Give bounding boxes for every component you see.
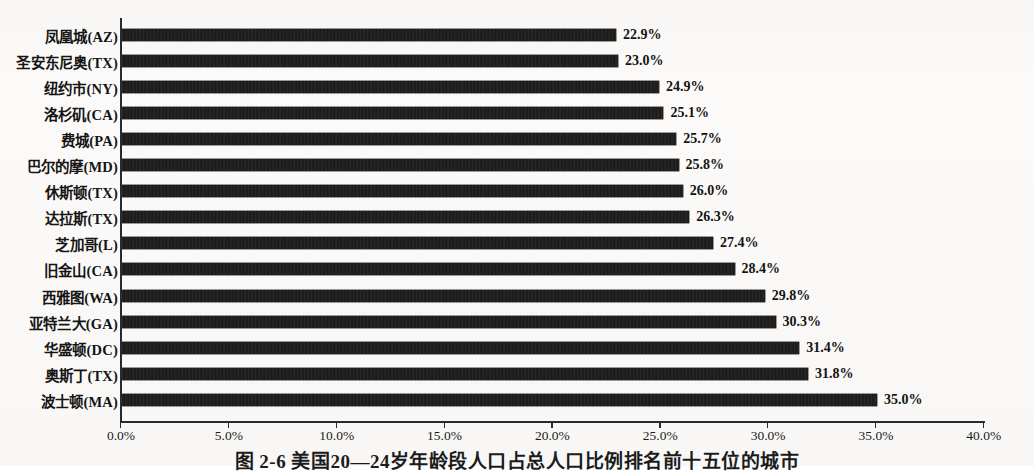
bar-value-label: 25.7% — [683, 131, 722, 147]
category-label: 华盛顿(DC) — [0, 337, 118, 358]
bar — [122, 133, 676, 145]
bar-row: 旧金山(CA)28.4% — [0, 256, 1034, 282]
x-axis-tick — [767, 421, 768, 428]
bar-value-label: 31.4% — [806, 340, 845, 356]
bar — [122, 342, 799, 354]
bar-row: 奥斯丁(TX)31.8% — [0, 361, 1034, 387]
bar-row: 亚特兰大(GA)30.3% — [0, 309, 1034, 335]
bar-row: 费城(PA)25.7% — [0, 126, 1034, 152]
category-label: 亚特兰大(GA) — [0, 311, 118, 332]
figure-caption: 图 2-6 美国20—24岁年龄段人口占总人口比例排名前十五位的城市 — [0, 446, 1034, 473]
bar — [122, 394, 877, 406]
x-axis-tick — [551, 421, 552, 428]
bar-row: 凤凰城(AZ)22.9% — [0, 22, 1034, 48]
category-label: 旧金山(CA) — [0, 259, 118, 280]
bar-value-label: 23.0% — [625, 53, 664, 69]
category-label: 费城(PA) — [0, 129, 118, 150]
category-label: 洛杉矶(CA) — [0, 103, 118, 124]
bar-row: 达拉斯(TX)26.3% — [0, 204, 1034, 230]
x-axis-tick — [983, 421, 984, 428]
bar-value-label: 25.8% — [686, 157, 725, 173]
bar — [122, 185, 683, 197]
bar-value-label: 35.0% — [884, 392, 923, 408]
bar — [122, 290, 765, 302]
bar-value-label: 26.0% — [690, 183, 729, 199]
bar — [122, 237, 713, 249]
bar-value-label: 29.8% — [772, 288, 811, 304]
bar-row: 纽约市(NY)24.9% — [0, 74, 1034, 100]
bar-row: 圣安东尼奥(TX)23.0% — [0, 48, 1034, 74]
x-axis-tick — [120, 421, 121, 428]
bar-value-label: 28.4% — [742, 261, 781, 277]
bar-row: 波士顿(MA)35.0% — [0, 387, 1034, 413]
bar-value-label: 27.4% — [720, 235, 759, 251]
bar — [122, 55, 618, 67]
category-label: 巴尔的摩(MD) — [0, 155, 118, 176]
x-axis-tick-label: 35.0% — [859, 428, 894, 444]
x-axis-tick — [444, 421, 445, 428]
bar-value-label: 30.3% — [783, 314, 822, 330]
bar-value-label: 31.8% — [815, 366, 854, 382]
bar — [122, 211, 689, 223]
bar — [122, 316, 776, 328]
y-axis-line — [120, 18, 122, 422]
bar-row: 芝加哥(L)27.4% — [0, 230, 1034, 256]
x-axis-tick-label: 15.0% — [427, 428, 462, 444]
category-label: 凤凰城(AZ) — [0, 25, 118, 46]
category-label: 纽约市(NY) — [0, 77, 118, 98]
bar-value-label: 24.9% — [666, 79, 705, 95]
bar — [122, 29, 616, 41]
bar-chart: 凤凰城(AZ)22.9%圣安东尼奥(TX)23.0%纽约市(NY)24.9%洛杉… — [0, 0, 1034, 440]
bar — [122, 263, 735, 275]
x-axis-tick-label: 30.0% — [751, 428, 786, 444]
category-label: 西雅图(WA) — [0, 285, 118, 306]
bar-row: 休斯顿(TX)26.0% — [0, 178, 1034, 204]
bar — [122, 107, 663, 119]
x-axis-tick-label: 20.0% — [535, 428, 570, 444]
category-label: 芝加哥(L) — [0, 233, 118, 254]
bar-row: 巴尔的摩(MD)25.8% — [0, 152, 1034, 178]
x-axis-tick-label: 10.0% — [319, 428, 354, 444]
bar — [122, 368, 808, 380]
bar-value-label: 22.9% — [623, 27, 662, 43]
x-axis-tick-label: 0.0% — [107, 428, 135, 444]
x-axis-tick — [228, 421, 229, 428]
x-axis-tick — [336, 421, 337, 428]
bar-row: 西雅图(WA)29.8% — [0, 283, 1034, 309]
bar — [122, 159, 679, 171]
category-label: 波士顿(MA) — [0, 389, 118, 410]
bar — [122, 81, 659, 93]
category-label: 休斯顿(TX) — [0, 181, 118, 202]
x-axis-tick — [875, 421, 876, 428]
x-axis-tick-label: 40.0% — [966, 428, 1001, 444]
bar-value-label: 26.3% — [696, 209, 735, 225]
category-label: 圣安东尼奥(TX) — [0, 51, 118, 72]
x-axis-tick-label: 5.0% — [215, 428, 243, 444]
bar-row: 华盛顿(DC)31.4% — [0, 335, 1034, 361]
bar-value-label: 25.1% — [670, 105, 709, 121]
category-label: 奥斯丁(TX) — [0, 363, 118, 384]
x-axis-tick — [659, 421, 660, 428]
x-axis-tick-label: 25.0% — [643, 428, 678, 444]
bar-row: 洛杉矶(CA)25.1% — [0, 100, 1034, 126]
category-label: 达拉斯(TX) — [0, 207, 118, 228]
